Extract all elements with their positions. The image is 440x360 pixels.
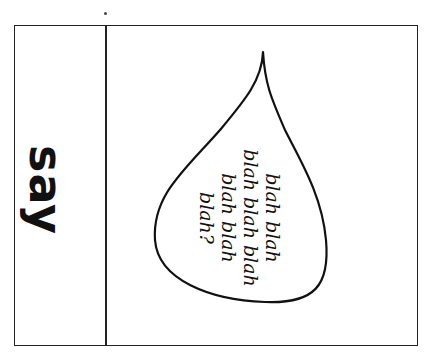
bubble-line: blah?	[196, 149, 218, 287]
bubble-line: blah blah blah	[240, 149, 262, 287]
bubble-line: blah blah	[262, 149, 284, 287]
speech-bubble-text: blah blah blah blah blah blah blah blah?	[196, 149, 284, 287]
bubble-line: blah blah	[218, 149, 240, 287]
